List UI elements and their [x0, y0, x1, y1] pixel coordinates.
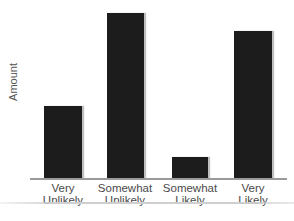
tick-line-1: Somewhat [90, 182, 160, 194]
y-axis-label: Amount [5, 74, 21, 90]
tick-line-2: Unlikely [28, 194, 98, 206]
tick-line-1: Somewhat [155, 182, 225, 194]
tick-line-2: Likely [155, 194, 225, 206]
x-axis-line [30, 178, 287, 180]
tick-line-2: Likely [218, 194, 288, 206]
tick-line-1: Very [218, 182, 288, 194]
tick-line-2: Unlikely [90, 194, 160, 206]
bar-chart: Amount Very Unlikely Somewhat Unlikely S… [0, 0, 294, 221]
bar-somewhat-likely [172, 157, 208, 178]
tick-line-1: Very [28, 182, 98, 194]
bar-somewhat-unlikely [107, 13, 144, 178]
bar-very-unlikely [44, 106, 82, 178]
bar-very-likely [234, 31, 272, 178]
x-axis-label-clipped [40, 213, 270, 221]
page-fold-line [0, 202, 294, 204]
